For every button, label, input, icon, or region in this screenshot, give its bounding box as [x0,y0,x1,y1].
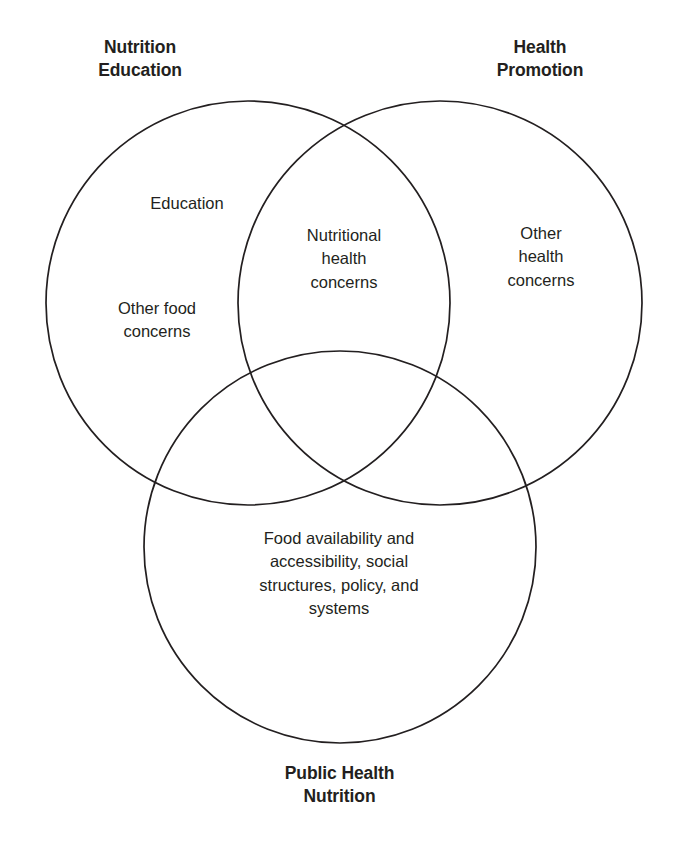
region-label-food-availability: Food availability and accessibility, soc… [214,527,464,621]
label-nutrition-education: Nutrition Education [30,36,250,82]
region-label-other-health-concerns: Other health concerns [466,222,616,292]
region-label-nutritional-health-concerns: Nutritional health concerns [264,224,424,294]
label-public-health-nutrition: Public Health Nutrition [232,762,447,808]
circle-health-promotion [238,101,642,505]
venn-diagram-page: Nutrition Education Health Promotion Pub… [0,0,675,846]
label-health-promotion: Health Promotion [430,36,650,82]
venn-circles-graphic [0,0,675,846]
region-label-other-food-concerns: Other food concerns [62,297,252,344]
region-label-education: Education [92,192,282,215]
